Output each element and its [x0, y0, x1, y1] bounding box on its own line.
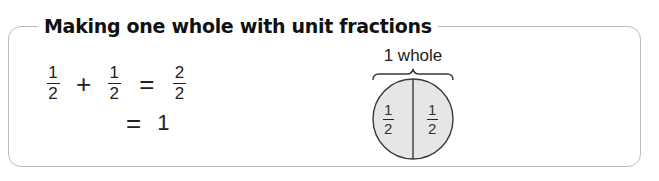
numerator: 1 [46, 64, 59, 82]
equals-operator: = [126, 110, 141, 136]
numerator: 1 [382, 102, 394, 118]
denominator: 2 [109, 85, 118, 103]
fraction-circle-diagram: 1 whole 1 2 1 2 [365, 46, 461, 166]
fraction-term-2: 1 2 [103, 64, 125, 103]
fraction-result: 2 2 [168, 64, 190, 103]
right-half-fraction: 1 2 [426, 102, 438, 137]
numerator: 2 [173, 64, 186, 82]
equation-line-2: = 1 [126, 110, 169, 136]
fraction-term-1: 1 2 [42, 64, 64, 103]
circle-svg [365, 46, 461, 166]
equation-line-1: 1 2 + 1 2 = 2 2 [42, 64, 190, 103]
denominator: 2 [48, 85, 57, 103]
section-title: Making one whole with unit fractions [38, 14, 438, 38]
left-half-fraction: 1 2 [382, 102, 394, 137]
equals-operator: = [139, 71, 154, 97]
denominator: 2 [175, 85, 184, 103]
numerator: 1 [107, 64, 120, 82]
plus-operator: + [76, 71, 91, 97]
denominator: 2 [384, 121, 392, 137]
result-value: 1 [157, 110, 169, 136]
denominator: 2 [428, 121, 436, 137]
numerator: 1 [426, 102, 438, 118]
